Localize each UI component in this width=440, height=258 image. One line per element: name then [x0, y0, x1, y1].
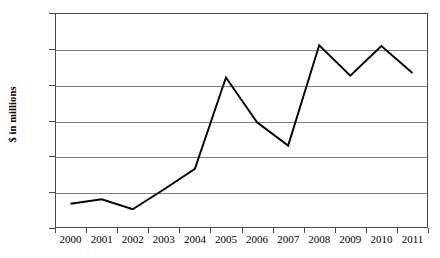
x-tick-mark	[148, 228, 149, 233]
x-tick-mark	[273, 228, 274, 233]
x-tick-mark	[428, 228, 429, 233]
y-axis-title: $ in millions	[0, 0, 24, 228]
x-tick-mark	[86, 228, 87, 233]
x-tick-mark	[304, 228, 305, 233]
x-tick-mark	[366, 228, 367, 233]
line-chart: $ in millions 024681012 2000200120022003…	[0, 0, 440, 258]
x-tick-mark	[335, 228, 336, 233]
plot-area	[55, 13, 428, 228]
x-tick-mark	[179, 228, 180, 233]
gridline-2	[56, 193, 427, 194]
gridline-10	[56, 50, 427, 51]
x-tick-mark	[117, 228, 118, 233]
x-tick-mark	[55, 228, 56, 233]
gridline-8	[56, 86, 427, 87]
gridline-6	[56, 122, 427, 123]
x-tick-mark	[242, 228, 243, 233]
x-tick-mark	[210, 228, 211, 233]
y-axis-title-label: $ in millions	[7, 86, 18, 142]
x-tick-label: 2011	[387, 234, 437, 245]
gridline-4	[56, 157, 427, 158]
x-tick-mark	[397, 228, 398, 233]
